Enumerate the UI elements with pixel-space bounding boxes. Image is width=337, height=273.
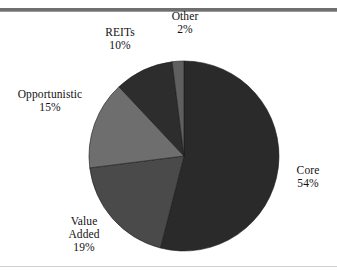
bottom-rule-divider bbox=[0, 266, 337, 267]
pie-label-core: Core 54% bbox=[282, 164, 334, 190]
pie-label-reits-value: 10% bbox=[83, 39, 157, 52]
pie-label-opportunistic-name: Opportunistic bbox=[2, 88, 98, 101]
pie-label-value-added-line1: Value bbox=[48, 215, 120, 228]
pie-label-other-name: Other bbox=[143, 10, 227, 23]
pie-label-core-value: 54% bbox=[282, 177, 334, 190]
pie-label-opportunistic-value: 15% bbox=[2, 101, 98, 114]
pie-label-value-added: Value Added 19% bbox=[48, 215, 120, 254]
pie-label-value-added-line2: Added bbox=[48, 228, 120, 241]
pie-label-value-added-value: 19% bbox=[48, 241, 120, 254]
pie-chart-figure: Other 2% REITs 10% Opportunistic 15% Val… bbox=[0, 0, 337, 273]
pie-label-reits-name: REITs bbox=[83, 26, 157, 39]
pie-label-opportunistic: Opportunistic 15% bbox=[2, 88, 98, 114]
pie-label-core-name: Core bbox=[282, 164, 334, 177]
pie-label-reits: REITs 10% bbox=[83, 26, 157, 52]
